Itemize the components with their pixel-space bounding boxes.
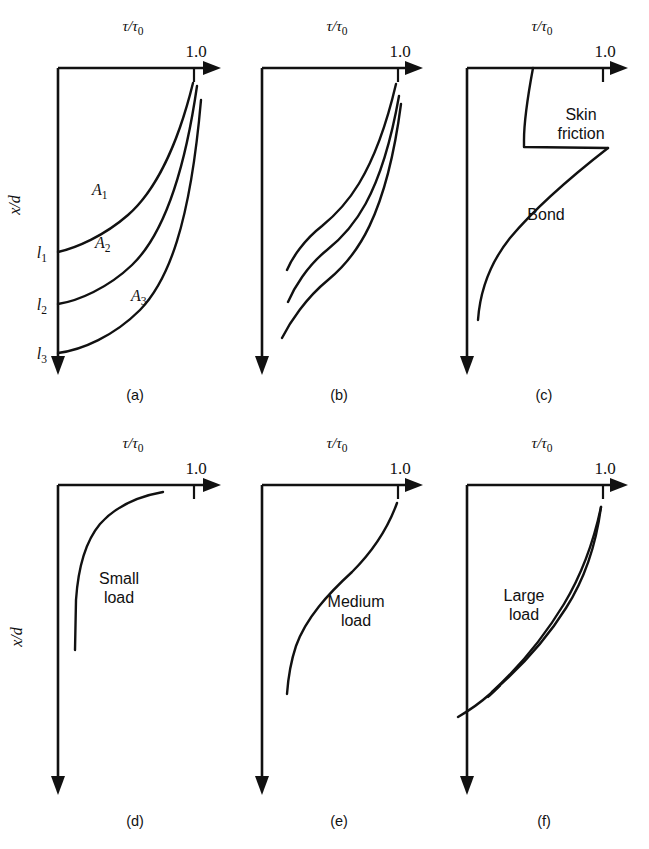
panel-c-curve-bond bbox=[478, 148, 608, 320]
panel-a-x-axis-arrowhead bbox=[203, 61, 221, 75]
panel-d-caption: (d) bbox=[126, 813, 144, 829]
panel-c-annotation-skin-friction-line1: Skin bbox=[565, 106, 596, 123]
panel-a-y-axis-label: x/d bbox=[6, 194, 23, 216]
panel-f: τ/τ0 1.0 Large load (f) bbox=[458, 434, 628, 829]
panel-a: τ/τ0 1.0 x/d l1 l2 l3 A1 A2 A3 (a) bbox=[6, 17, 221, 403]
panel-f-annotation-large-load-line2: load bbox=[509, 606, 539, 623]
panel-b-curve-1 bbox=[287, 84, 396, 270]
panel-e: τ/τ0 1.0 Medium load (e) bbox=[255, 434, 423, 829]
panel-e-x-axis-arrowhead bbox=[405, 478, 423, 492]
panel-f-annotation-large-load-line1: Large bbox=[504, 587, 545, 604]
panel-d: τ/τ0 1.0 x/d Small load (d) bbox=[8, 434, 221, 829]
panel-a-curve-A3 bbox=[58, 100, 201, 353]
panel-c-caption: (c) bbox=[536, 387, 553, 403]
panel-d-y-axis-label: x/d bbox=[8, 626, 25, 648]
panel-a-x-axis-label: τ/τ0 bbox=[122, 17, 143, 37]
panel-c-x-axis-arrowhead bbox=[610, 61, 628, 75]
panel-b-x-tick-label: 1.0 bbox=[389, 42, 410, 61]
panel-e-annotation-medium-load-line2: load bbox=[341, 612, 371, 629]
panel-d-x-axis-label: τ/τ0 bbox=[122, 434, 143, 454]
panel-b-caption: (b) bbox=[330, 387, 348, 403]
panel-c-annotation-bond: Bond bbox=[527, 206, 564, 223]
panel-a-curve-label-A1: A1 bbox=[91, 181, 108, 201]
panel-d-x-axis-arrowhead bbox=[203, 478, 221, 492]
panel-a-curve-label-A2: A2 bbox=[94, 234, 111, 254]
panel-b-curve-2 bbox=[288, 96, 399, 302]
panel-a-y-tick-l3: l3 bbox=[37, 345, 47, 365]
panel-b-x-axis-arrowhead bbox=[405, 61, 423, 75]
panel-b-y-axis-arrowhead bbox=[255, 356, 269, 375]
panel-d-x-tick-label: 1.0 bbox=[185, 459, 206, 478]
panel-a-x-tick-label: 1.0 bbox=[185, 42, 206, 61]
figure-svg: τ/τ0 1.0 x/d l1 l2 l3 A1 A2 A3 (a) τ/τ0 … bbox=[0, 0, 649, 849]
panel-c-y-axis-arrowhead bbox=[460, 356, 474, 375]
panel-c-x-tick-label: 1.0 bbox=[594, 42, 615, 61]
panel-a-y-axis-arrowhead bbox=[51, 356, 65, 375]
panel-a-curve-A2 bbox=[58, 86, 197, 304]
panel-a-y-tick-l1: l1 bbox=[37, 244, 47, 264]
panel-a-caption: (a) bbox=[126, 387, 144, 403]
panel-c: τ/τ0 1.0 Skin friction Bond (c) bbox=[460, 17, 628, 403]
panel-a-y-tick-l2: l2 bbox=[37, 296, 47, 316]
panel-b: τ/τ0 1.0 (b) bbox=[255, 17, 423, 403]
panel-b-curve-3 bbox=[282, 104, 401, 338]
panel-e-x-tick-label: 1.0 bbox=[389, 459, 410, 478]
panel-d-annotation-small-load-line1: Small bbox=[99, 570, 139, 587]
figure-container: τ/τ0 1.0 x/d l1 l2 l3 A1 A2 A3 (a) τ/τ0 … bbox=[0, 0, 649, 849]
panel-b-x-axis-label: τ/τ0 bbox=[326, 17, 347, 37]
panel-d-y-axis-arrowhead bbox=[51, 776, 65, 795]
panel-f-x-axis-arrowhead bbox=[610, 478, 628, 492]
panel-d-annotation-small-load-line2: load bbox=[104, 589, 134, 606]
panel-e-y-axis-arrowhead bbox=[255, 776, 269, 795]
panel-e-caption: (e) bbox=[330, 813, 348, 829]
panel-f-x-tick-label: 1.0 bbox=[594, 459, 615, 478]
panel-a-curve-label-A3: A3 bbox=[130, 287, 147, 307]
panel-c-annotation-skin-friction-line2: friction bbox=[557, 125, 604, 142]
panel-f-caption: (f) bbox=[537, 813, 551, 829]
panel-e-annotation-medium-load-line1: Medium bbox=[328, 593, 385, 610]
panel-f-y-axis-arrowhead bbox=[460, 776, 474, 795]
panel-f-x-axis-label: τ/τ0 bbox=[531, 434, 552, 454]
panel-c-x-axis-label: τ/τ0 bbox=[531, 17, 552, 37]
panel-e-x-axis-label: τ/τ0 bbox=[326, 434, 347, 454]
panel-a-curve-A1 bbox=[58, 83, 193, 252]
